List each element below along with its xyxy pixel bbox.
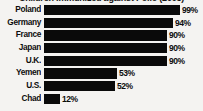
category-label: Germany [3,17,41,30]
category-label: Poland [3,4,41,17]
bar-track: 12% [44,94,181,104]
bar [44,56,167,66]
category-label: U.K. [3,55,41,68]
bar-track: 90% [44,56,181,66]
category-label: Chad [3,93,41,106]
bar-value-label: 53% [117,68,135,78]
chart-row: Germany 94% [0,17,203,30]
bar [44,30,167,40]
chart-row: France 90% [0,29,203,42]
bar [44,43,167,53]
chart-row: U.S. 52% [0,80,203,93]
bar-value-label: 99% [180,5,198,15]
bar-track: 90% [44,43,181,53]
chart-row: Chad 12% [0,93,203,106]
chart-row: Yemen 53% [0,67,203,80]
bar-value-label: 94% [173,18,191,28]
bar [44,81,115,91]
bar [44,5,180,15]
bar-value-label: 52% [115,81,133,91]
bar [44,94,60,104]
bar-track: 94% [44,18,181,28]
chart-row: U.K. 90% [0,55,203,68]
bar-track: 52% [44,81,181,91]
bar-track: 90% [44,30,181,40]
bar-value-label: 90% [167,30,185,40]
bar [44,68,117,78]
bar-track: 99% [44,5,181,15]
bar-track: 53% [44,68,181,78]
bar-value-label: 12% [60,94,78,104]
bar-value-label: 90% [167,56,185,66]
category-label: Japan [3,42,41,55]
chart-row: Poland 99% [0,4,203,17]
category-label: France [3,29,41,42]
chart-plot-area: Poland 99% Germany 94% France 90% Japan [0,4,203,111]
category-label: Yemen [3,67,41,80]
chart-row: Japan 90% [0,42,203,55]
bar-value-label: 90% [167,43,185,53]
bar-chart: Children Immunized against Polio (2003) … [0,0,203,111]
category-label: U.S. [3,80,41,93]
bar [44,18,173,28]
chart-title: Children Immunized against Polio (2003) [0,0,203,3]
